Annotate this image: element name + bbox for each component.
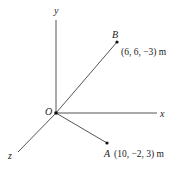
x-axis-label: x: [159, 108, 165, 119]
origin-label: O: [45, 106, 52, 117]
point-a: [105, 141, 108, 144]
point-a-coords: (10, −2, 3) m: [114, 149, 165, 160]
coordinate-diagram: y x z O B (6, 6, −3) m A (10, −2, 3) m: [0, 0, 180, 170]
z-axis-label: z: [7, 150, 12, 161]
z-axis: [18, 113, 56, 152]
point-a-label: A: [103, 148, 111, 159]
y-axis-label: y: [53, 5, 59, 16]
point-b-label: B: [112, 29, 118, 40]
segment-oa: [56, 113, 107, 143]
point-b-coords: (6, 6, −3) m: [121, 47, 167, 58]
segment-ob: [56, 42, 117, 113]
origin-point: [54, 111, 58, 115]
point-b: [115, 40, 118, 43]
